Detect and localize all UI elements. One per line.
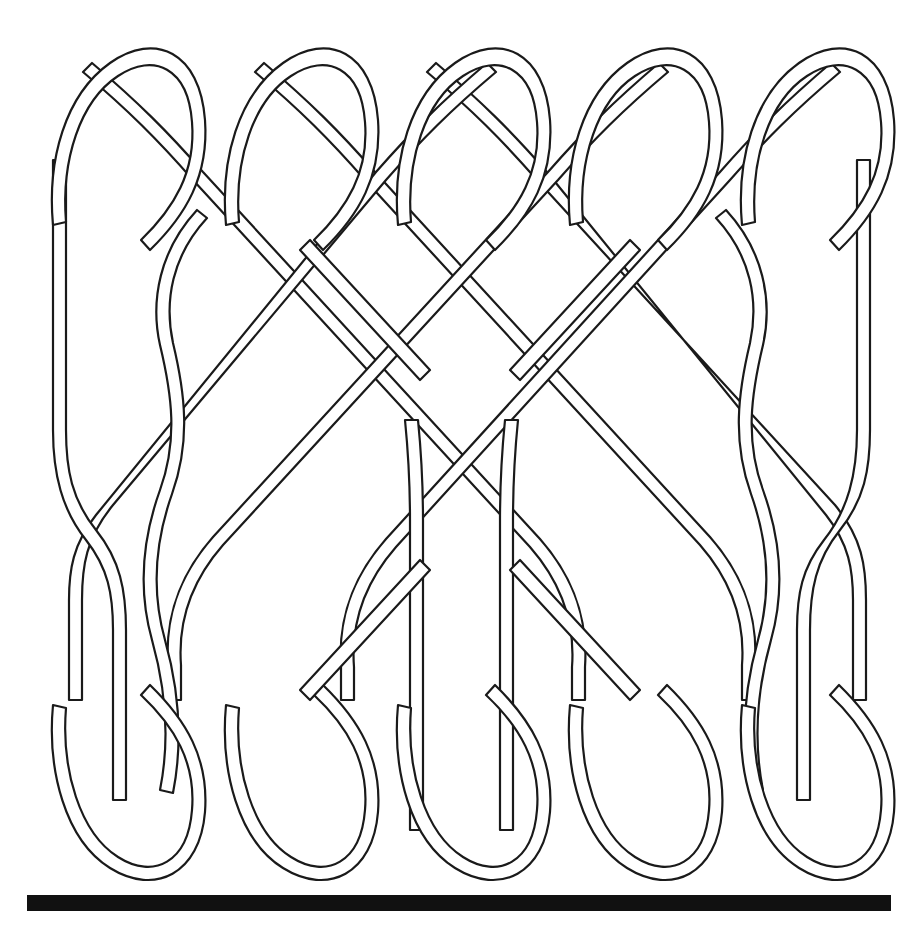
celtic-knot-drawing [0,0,923,947]
figure-canvas: Interlaced Celtic knotwork panel double-… [0,0,923,947]
baseline-rule [27,895,891,911]
